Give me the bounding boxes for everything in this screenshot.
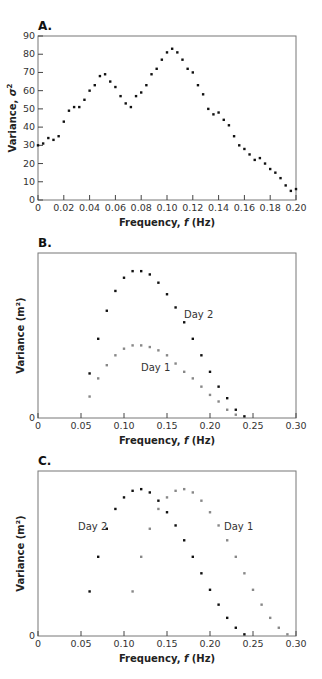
data-point [217,603,219,605]
data-point [140,488,142,490]
data-point [114,508,116,510]
chart-c-day-comparison: 00.050.100.150.200.250.300Frequency, f (… [0,0,322,679]
x-tick-label: 0.05 [70,638,91,649]
data-point [243,572,245,574]
plot-frame [38,471,296,636]
data-point [140,556,142,558]
data-point [183,488,185,490]
data-point [88,590,90,592]
data-point [217,524,219,526]
x-tick-label: 0.30 [285,638,306,649]
data-point [200,572,202,574]
x-tick-label: 0.10 [113,638,134,649]
data-point [157,508,159,510]
data-point [286,633,288,635]
data-point [149,491,151,493]
data-point [200,500,202,502]
data-point [235,556,237,558]
x-tick-label: 0 [35,638,41,649]
annotation-day-2: Day 2 [78,521,107,532]
y-axis-label: Variance (m²) [15,515,26,591]
data-point [209,589,211,591]
x-axis-label: Frequency, f (Hz) [119,653,215,664]
data-point [166,511,168,513]
series-day-2 [88,488,245,636]
data-point [243,633,245,635]
data-point [131,590,133,592]
data-point [123,496,125,498]
annotation-day-1: Day 1 [224,521,253,532]
data-point [166,496,168,498]
y-tick-label: 0 [29,630,35,641]
x-tick-label: 0.20 [199,638,220,649]
data-point [226,617,228,619]
data-point [235,627,237,629]
data-point [97,556,99,558]
data-point [278,627,280,629]
data-point [131,490,133,492]
series-day-1 [131,488,288,636]
data-point [174,490,176,492]
data-point [192,556,194,558]
data-point [252,589,254,591]
data-point [209,511,211,513]
data-point [157,500,159,502]
data-point [226,539,228,541]
x-tick-label: 0.15 [156,638,177,649]
data-point [269,617,271,619]
data-point [183,539,185,541]
x-tick-label: 0.25 [242,638,263,649]
data-point [149,528,151,530]
data-point [174,524,176,526]
data-point [260,603,262,605]
data-point [192,491,194,493]
